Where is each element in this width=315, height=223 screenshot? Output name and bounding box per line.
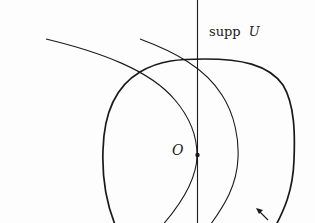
support-label-text: supp [209, 24, 241, 39]
support-label: supp U [209, 24, 260, 39]
arrow-icon [256, 208, 268, 220]
origin-point [195, 153, 199, 157]
diagram-svg [0, 0, 315, 223]
level-curve-2 [140, 39, 238, 223]
diagram-canvas: supp U O [0, 0, 315, 223]
origin-label: O [172, 142, 183, 158]
level-curve-1 [46, 39, 197, 223]
support-label-var: U [249, 24, 260, 39]
closed-region-boundary [103, 59, 295, 223]
